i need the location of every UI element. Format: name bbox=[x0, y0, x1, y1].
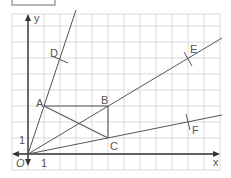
origin-label: O bbox=[16, 157, 25, 169]
y-neg-arrow-icon bbox=[25, 159, 31, 166]
point-B-label: B bbox=[101, 94, 108, 106]
y-axis-label: y bbox=[34, 12, 40, 24]
x-axis-label: x bbox=[213, 156, 219, 168]
coordinate-diagram: y x O 1 1 A B C D E F bbox=[0, 0, 231, 178]
point-D-label: D bbox=[50, 47, 58, 59]
y-unit-label: 1 bbox=[19, 134, 25, 146]
point-E-label: E bbox=[190, 43, 197, 55]
x-unit-label: 1 bbox=[41, 157, 47, 169]
tick-marks bbox=[52, 52, 192, 130]
point-C-label: C bbox=[110, 140, 118, 152]
point-A-label: A bbox=[36, 97, 44, 109]
y-arrow-icon bbox=[25, 14, 31, 21]
label-box bbox=[12, 0, 55, 5]
point-F-label: F bbox=[192, 124, 199, 136]
ray-OA bbox=[28, 10, 76, 154]
